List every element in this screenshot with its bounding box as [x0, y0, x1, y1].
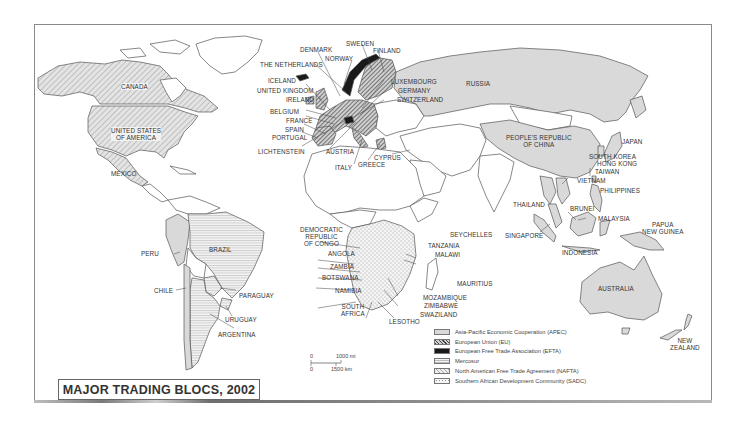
label-uk: UNITED KINGDOM: [257, 87, 314, 94]
nafta-swatch-icon: [434, 368, 450, 374]
uk-shape: [316, 88, 328, 110]
scale-km-label: 1500 km: [331, 366, 352, 372]
legend-item-eu: European Union (EU): [434, 337, 634, 347]
legend-item-mercosur: Mercosur: [434, 356, 634, 366]
label-france: FRANCE: [286, 117, 313, 124]
label-usa-line1: UNITED STATES: [111, 127, 161, 134]
label-greece: GREECE: [358, 161, 385, 168]
sadc-shape: [346, 220, 416, 310]
label-tanzania: TANZANIA: [428, 242, 459, 249]
label-sa-line2: AFRICA: [341, 310, 365, 317]
legend-label: Asia-Pacific Economic Cooperation (APEC): [455, 329, 567, 335]
label-zambia: ZAMBIA: [330, 263, 354, 270]
label-usa-line2: OF AMERICA: [116, 134, 156, 141]
label-denmark: DENMARK: [300, 46, 332, 53]
label-new-zealand: NEWZEALAND: [670, 337, 700, 351]
north-africa: [304, 146, 424, 214]
eu-swatch-icon: [434, 339, 450, 345]
label-nz-line1: NEW: [677, 337, 692, 344]
label-drc-line1: DEMOCRATIC: [300, 226, 343, 233]
label-mexico: MEXICO: [111, 170, 136, 177]
label-malawi: MALAWI: [435, 251, 460, 258]
malaysia-shape: [548, 204, 562, 228]
label-png-line2: NEW GUINEA: [642, 228, 684, 235]
legend-label: North American Free Trade Agreement (NAF…: [455, 368, 579, 374]
label-png: PAPUANEW GUINEA: [642, 221, 684, 235]
legend-label: European Union (EU): [455, 339, 510, 345]
peru-shape: [166, 214, 190, 266]
borneo-shape: [570, 212, 596, 236]
label-swaziland: SWAZILAND: [420, 311, 457, 318]
legend: Asia-Pacific Economic Cooperation (APEC)…: [434, 327, 634, 386]
label-lesotho: LESOTHO: [389, 318, 420, 325]
label-china-line2: OF CHINA: [523, 141, 554, 148]
greece-shape: [376, 138, 386, 150]
label-portugal: PORTUGAL: [272, 134, 307, 141]
label-drc: DEMOCRATICREPUBLICOF CONGO: [300, 226, 343, 247]
label-luxembourg: LUXEMBOURG: [391, 78, 437, 85]
legend-item-efta: European Free Trade Association (EFTA): [434, 347, 634, 357]
label-zimbabwe: ZIMBABWE: [424, 302, 458, 309]
label-brunei: BRUNEI: [570, 205, 594, 212]
label-china-line1: PEOPLE'S REPUBLIC: [506, 134, 572, 141]
label-brazil: BRAZIL: [209, 246, 232, 253]
label-mozambique: MOZAMBIQUE: [423, 294, 467, 301]
label-uruguay: URUGUAY: [225, 316, 257, 323]
label-nz-line2: ZEALAND: [670, 344, 700, 351]
label-argentina: ARGENTINA: [218, 331, 256, 338]
map-title: MAJOR TRADING BLOCS, 2002: [63, 383, 256, 397]
label-paraguay: PARAGUAY: [239, 292, 274, 299]
label-belgium: BELGIUM: [270, 108, 299, 115]
legend-item-apec: Asia-Pacific Economic Cooperation (APEC): [434, 327, 634, 337]
mercosur-swatch-icon: [434, 358, 450, 364]
label-china: PEOPLE'S REPUBLICOF CHINA: [506, 134, 572, 148]
label-south-korea: SOUTH KOREA: [589, 153, 636, 160]
apec-swatch-icon: [434, 329, 450, 335]
iceland-shape: [296, 74, 309, 81]
label-singapore: SINGAPORE: [505, 232, 543, 239]
label-germany: GERMANY: [398, 87, 431, 94]
label-malaysia: MALAYSIA: [598, 215, 630, 222]
label-liechtenstein: LICHTENSTEIN: [258, 148, 305, 155]
label-sweden: SWEDEN: [346, 40, 374, 47]
scale-bar: 0 1000 mi 0 1500 km: [309, 353, 359, 375]
label-russia: RUSSIA: [466, 80, 490, 87]
label-drc-line2: REPUBLIC: [305, 233, 337, 240]
thailand-shape: [540, 176, 556, 204]
efta-swatch-icon: [434, 348, 450, 354]
label-switzerland: SWITZERLAND: [397, 96, 443, 103]
label-sa-line1: SOUTH: [342, 303, 365, 310]
label-peru: PERU: [141, 250, 159, 257]
label-italy: ITALY: [335, 164, 352, 171]
label-south-africa: SOUTHAFRICA: [341, 303, 365, 317]
legend-item-sadc: Southern African Development Community (…: [434, 376, 634, 386]
vietnam-shape: [556, 178, 570, 204]
label-austria: AUSTRIA: [326, 148, 354, 155]
label-netherlands: THE NETHERLANDS: [260, 61, 323, 68]
label-japan: JAPAN: [622, 138, 642, 145]
legend-item-nafta: North American Free Trade Agreement (NAF…: [434, 366, 634, 376]
uruguay-shape: [220, 298, 232, 310]
label-thailand: THAILAND: [513, 201, 545, 208]
label-usa: UNITED STATESOF AMERICA: [111, 127, 161, 141]
label-vietnam: VIETNAM: [577, 177, 606, 184]
label-cyprus: CYPRUS: [374, 154, 401, 161]
frame-bottom-edge: [34, 400, 712, 403]
legend-label: Southern African Development Community (…: [455, 378, 586, 384]
label-taiwan: TAIWAN: [595, 168, 619, 175]
label-mauritius: MAURITIUS: [457, 280, 493, 287]
label-indonesia: INDONESIA: [562, 249, 598, 256]
map-title-box: MAJOR TRADING BLOCS, 2002: [58, 379, 260, 400]
label-png-line1: PAPUA: [652, 221, 673, 228]
label-chile: CHILE: [154, 287, 173, 294]
label-iceland: ICELAND: [268, 77, 296, 84]
label-angola: ANGOLA: [328, 250, 355, 257]
greenland: [196, 36, 262, 74]
label-hong-kong: HONG KONG: [597, 160, 637, 167]
label-namibia: NAMIBIA: [335, 287, 362, 294]
label-finland: FINLAND: [373, 47, 401, 54]
sadc-swatch-icon: [434, 378, 450, 384]
label-drc-line3: OF CONGO: [304, 240, 339, 247]
label-norway: NORWAY: [325, 55, 353, 62]
label-spain: SPAIN: [285, 126, 304, 133]
